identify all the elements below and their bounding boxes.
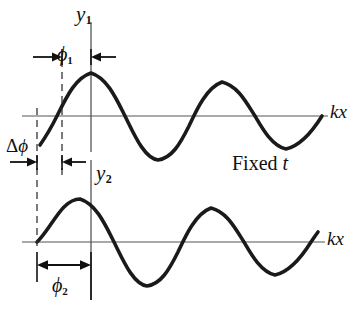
upper-kx-axis-label: kx (330, 102, 347, 121)
phi1-dimension (33, 49, 116, 65)
lower-kx-axis-label: kx (327, 229, 344, 248)
delta-phi-dimension (10, 155, 86, 170)
y1-axis-label: y1 (76, 4, 92, 26)
fixed-t-annotation-label: Fixed t (232, 153, 288, 173)
figure-canvas (0, 0, 364, 311)
delta-phi-annotation-label: Δϕ (6, 136, 28, 155)
wave-phase-figure: y1 y2 ϕ1 ϕ2 Δϕ Fixed t kx kx (0, 0, 364, 311)
phi1-annotation-label: ϕ1 (57, 44, 73, 66)
y2-axis-label: y2 (96, 163, 112, 185)
phi2-annotation-label: ϕ2 (52, 275, 68, 297)
